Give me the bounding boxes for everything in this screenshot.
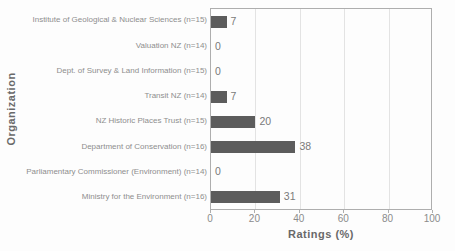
x-tick-label: 40 [293, 214, 304, 224]
bar-value-label: 0 [215, 66, 221, 77]
x-axis: 020406080100 [210, 210, 432, 226]
bar-value-label: 20 [259, 116, 271, 127]
category-label: Valuation NZ (n=14) [26, 33, 207, 58]
x-axis-title: Ratings (%) [210, 228, 432, 240]
bar-value-label: 0 [215, 41, 221, 52]
category-label: Institute of Geological & Nuclear Scienc… [26, 8, 207, 33]
bar-row: 38 [211, 134, 431, 159]
bar-value-label: 7 [231, 16, 237, 27]
bar-row: 7 [211, 84, 431, 109]
bar-value-label: 7 [231, 91, 237, 102]
bar [211, 116, 255, 128]
bar-rows: 7 0 0 7 20 38 [211, 9, 431, 209]
category-label: NZ Historic Places Trust (n=15) [26, 109, 207, 134]
bar-row: 7 [211, 9, 431, 34]
bar [211, 141, 295, 153]
bar-value-label: 38 [299, 141, 311, 152]
category-label: Parliamentary Commissioner (Environment)… [26, 160, 207, 185]
bar [211, 191, 280, 203]
bar-row: 0 [211, 34, 431, 59]
bar-row: 20 [211, 109, 431, 134]
plot-area: 7 0 0 7 20 38 [210, 8, 432, 210]
category-axis: Institute of Geological & Nuclear Scienc… [26, 8, 207, 210]
bar-value-label: 0 [215, 166, 221, 177]
y-axis-title: Organization [5, 72, 17, 145]
category-label: Dept. of Survey & Land Information (n=15… [26, 59, 207, 84]
bar-row: 31 [211, 184, 431, 209]
bar [211, 91, 227, 103]
category-label: Department of Conservation (n=16) [26, 134, 207, 159]
bar [211, 16, 227, 28]
bar-value-label: 31 [284, 191, 296, 202]
category-label: Transit NZ (n=14) [26, 84, 207, 109]
x-tick-label: 80 [382, 214, 393, 224]
bar-chart-figure: Organization Institute of Geological & N… [0, 0, 455, 251]
bar-row: 0 [211, 59, 431, 84]
x-tick-label: 60 [338, 214, 349, 224]
category-label: Ministry for the Environment (n=16) [26, 185, 207, 210]
x-tick-label: 100 [424, 214, 441, 224]
bar-row: 0 [211, 159, 431, 184]
x-tick-label: 0 [207, 214, 213, 224]
x-tick-label: 20 [249, 214, 260, 224]
